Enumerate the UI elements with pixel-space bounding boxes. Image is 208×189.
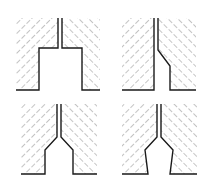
right-block-hatch: [61, 104, 97, 174]
left-block-hatch: [122, 104, 157, 174]
left-block-hatch: [122, 18, 154, 90]
panel-bottom-left: [21, 104, 97, 174]
panel-bottom-right: [122, 104, 197, 174]
orifice-diagram: [0, 0, 208, 189]
panel-top-right: [122, 18, 196, 90]
left-block-hatch: [16, 18, 58, 90]
panel-top-left: [16, 18, 100, 90]
right-block-hatch: [62, 18, 100, 90]
right-block-hatch: [158, 18, 196, 90]
left-block-hatch: [21, 104, 57, 174]
right-block-hatch: [161, 104, 197, 174]
